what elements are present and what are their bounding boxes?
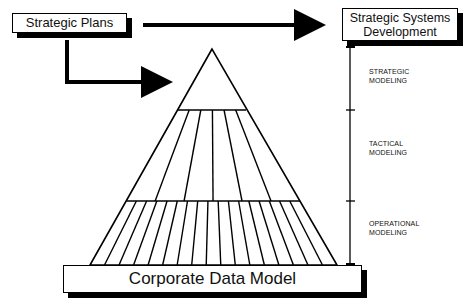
level-scale	[346, 47, 355, 265]
division-line	[212, 110, 213, 201]
strategic-systems-label-line2: Development	[343, 25, 457, 39]
corporate-data-model-label: Corporate Data Model	[129, 269, 296, 288]
diagram-canvas: Strategic Plans Strategic Systems Develo…	[0, 0, 468, 304]
corporate-data-model-box: Corporate Data Model	[63, 265, 362, 293]
strategic-plans-label: Strategic Plans	[26, 15, 113, 30]
level-label-operational: OPERATIONAL MODELING	[369, 219, 419, 237]
strategic-systems-label-line1: Strategic Systems	[343, 11, 457, 25]
arrow-plans-to-pyramid	[67, 40, 165, 82]
strategic-plans-box: Strategic Plans	[12, 13, 127, 33]
level-label-strategic: STRATEGIC MODELING	[369, 67, 409, 85]
strategic-systems-box: Strategic Systems Development	[342, 8, 458, 41]
level-label-tactical: TACTICAL MODELING	[369, 139, 407, 157]
